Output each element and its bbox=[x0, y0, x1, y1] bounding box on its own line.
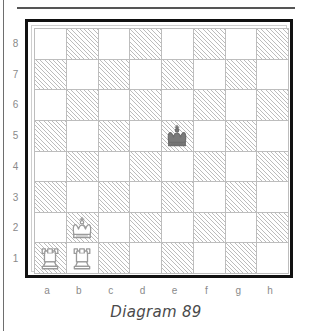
file-labels: a b c d e f g h bbox=[31, 281, 286, 299]
rank-label-2: 2 bbox=[8, 213, 23, 244]
board-square-f8[interactable] bbox=[194, 29, 226, 60]
board-square-h4[interactable] bbox=[257, 152, 289, 183]
board-square-h3[interactable] bbox=[257, 182, 289, 213]
file-label-b: b bbox=[63, 281, 95, 299]
board-square-f6[interactable] bbox=[194, 90, 226, 121]
board-square-h5[interactable] bbox=[257, 121, 289, 152]
board-square-e7[interactable] bbox=[162, 60, 194, 91]
board-square-d4[interactable] bbox=[130, 152, 162, 183]
board-square-c7[interactable] bbox=[99, 60, 131, 91]
chess-board-grid[interactable] bbox=[34, 28, 289, 274]
board-square-d7[interactable] bbox=[130, 60, 162, 91]
file-label-a: a bbox=[31, 281, 63, 299]
board-square-c6[interactable] bbox=[99, 90, 131, 121]
board-square-e1[interactable] bbox=[162, 243, 194, 274]
board-square-e8[interactable] bbox=[162, 29, 194, 60]
board-square-a8[interactable] bbox=[35, 29, 67, 60]
board-square-h8[interactable] bbox=[257, 29, 289, 60]
board-square-e6[interactable] bbox=[162, 90, 194, 121]
black-king-icon[interactable] bbox=[162, 121, 193, 151]
board-square-a5[interactable] bbox=[35, 121, 67, 152]
rank-label-8: 8 bbox=[8, 28, 23, 59]
rank-label-4: 4 bbox=[8, 151, 23, 182]
board-square-a6[interactable] bbox=[35, 90, 67, 121]
board-square-h1[interactable] bbox=[257, 243, 289, 274]
board-square-f5[interactable] bbox=[194, 121, 226, 152]
page-left-rule bbox=[3, 0, 4, 331]
board-square-f4[interactable] bbox=[194, 152, 226, 183]
board-square-d8[interactable] bbox=[130, 29, 162, 60]
board-square-c1[interactable] bbox=[99, 243, 131, 274]
rank-labels: 8 7 6 5 4 3 2 1 bbox=[8, 28, 23, 274]
board-square-c4[interactable] bbox=[99, 152, 131, 183]
board-square-g2[interactable] bbox=[226, 213, 258, 244]
board-square-a2[interactable] bbox=[35, 213, 67, 244]
white-rook-icon[interactable] bbox=[67, 243, 98, 273]
board-square-b4[interactable] bbox=[67, 152, 99, 183]
board-square-e2[interactable] bbox=[162, 213, 194, 244]
file-label-f: f bbox=[190, 281, 222, 299]
board-square-c5[interactable] bbox=[99, 121, 131, 152]
board-square-d2[interactable] bbox=[130, 213, 162, 244]
board-square-b5[interactable] bbox=[67, 121, 99, 152]
board-square-e4[interactable] bbox=[162, 152, 194, 183]
board-square-d6[interactable] bbox=[130, 90, 162, 121]
file-label-c: c bbox=[95, 281, 127, 299]
board-square-b8[interactable] bbox=[67, 29, 99, 60]
board-square-b7[interactable] bbox=[67, 60, 99, 91]
board-square-d1[interactable] bbox=[130, 243, 162, 274]
board-square-a4[interactable] bbox=[35, 152, 67, 183]
board-square-g5[interactable] bbox=[226, 121, 258, 152]
file-label-d: d bbox=[127, 281, 159, 299]
rank-label-7: 7 bbox=[8, 59, 23, 90]
board-square-f7[interactable] bbox=[194, 60, 226, 91]
board-square-c2[interactable] bbox=[99, 213, 131, 244]
file-label-h: h bbox=[254, 281, 286, 299]
white-king-icon[interactable] bbox=[67, 213, 98, 243]
board-square-h2[interactable] bbox=[257, 213, 289, 244]
board-square-c3[interactable] bbox=[99, 182, 131, 213]
diagram-page: 8 7 6 5 4 3 2 1 bbox=[0, 0, 312, 331]
rank-label-1: 1 bbox=[8, 243, 23, 274]
board-square-g1[interactable] bbox=[226, 243, 258, 274]
board-square-a7[interactable] bbox=[35, 60, 67, 91]
board-square-f1[interactable] bbox=[194, 243, 226, 274]
board-square-d3[interactable] bbox=[130, 182, 162, 213]
rank-label-3: 3 bbox=[8, 182, 23, 213]
board-square-b3[interactable] bbox=[67, 182, 99, 213]
board-square-b2[interactable] bbox=[67, 213, 99, 244]
rank-label-5: 5 bbox=[8, 120, 23, 151]
board-square-e5[interactable] bbox=[162, 121, 194, 152]
board-square-e3[interactable] bbox=[162, 182, 194, 213]
board-square-d5[interactable] bbox=[130, 121, 162, 152]
board-square-h6[interactable] bbox=[257, 90, 289, 121]
white-rook-icon[interactable] bbox=[35, 243, 66, 273]
board-square-b1[interactable] bbox=[67, 243, 99, 274]
page-top-rule bbox=[17, 7, 295, 9]
board-square-g6[interactable] bbox=[226, 90, 258, 121]
board-square-f3[interactable] bbox=[194, 182, 226, 213]
file-label-e: e bbox=[159, 281, 191, 299]
rank-label-6: 6 bbox=[8, 90, 23, 121]
board-square-a1[interactable] bbox=[35, 243, 67, 274]
board-square-g8[interactable] bbox=[226, 29, 258, 60]
diagram-caption: Diagram 89 bbox=[0, 303, 312, 321]
board-square-g7[interactable] bbox=[226, 60, 258, 91]
board-square-h7[interactable] bbox=[257, 60, 289, 91]
file-label-g: g bbox=[222, 281, 254, 299]
board-square-b6[interactable] bbox=[67, 90, 99, 121]
chess-board-frame bbox=[25, 19, 293, 278]
board-square-g3[interactable] bbox=[226, 182, 258, 213]
board-square-a3[interactable] bbox=[35, 182, 67, 213]
board-square-c8[interactable] bbox=[99, 29, 131, 60]
board-square-g4[interactable] bbox=[226, 152, 258, 183]
board-square-f2[interactable] bbox=[194, 213, 226, 244]
